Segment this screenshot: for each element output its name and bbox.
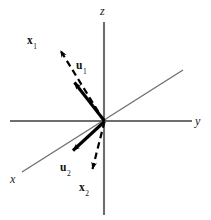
vector-u1-arrow: [75, 83, 105, 122]
vector-label-x1-subscript: 1: [33, 42, 37, 51]
vector-label-x2: x2: [79, 182, 89, 196]
vector-label-x1-letter: x: [27, 34, 33, 46]
vector-label-u1-letter: u: [76, 59, 82, 71]
vector-label-u1-subscript: 1: [83, 67, 87, 76]
vector-label-x2-subscript: 2: [85, 189, 89, 198]
vector-label-x1: x1: [27, 35, 37, 49]
vector-label-u2-letter: u: [60, 161, 66, 173]
vector-label-u1: u1: [76, 60, 86, 74]
vector-label-u2: u2: [60, 162, 70, 176]
axis-label-y: y: [195, 115, 200, 127]
axis-label-x: x: [10, 173, 15, 185]
axis-label-z: z: [100, 5, 105, 17]
vector-label-u2-subscript: 2: [67, 169, 71, 178]
vector-diagram-figure: z y x x1 u1 u2 x2: [0, 0, 211, 220]
vector-diagram-canvas: [0, 0, 211, 220]
vector-label-x2-letter: x: [79, 181, 85, 193]
